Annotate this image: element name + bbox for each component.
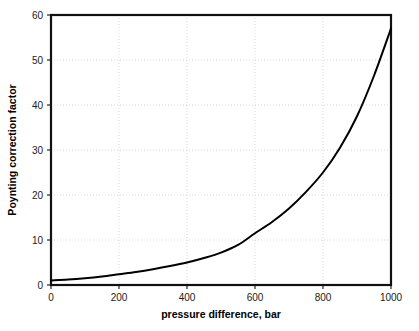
chart-background xyxy=(0,0,419,331)
poynting-correction-factor-chart: 02004006008001000 0102030405060 pressure… xyxy=(0,0,419,331)
y-tick-label: 50 xyxy=(32,55,44,66)
x-tick-label: 800 xyxy=(315,292,332,303)
x-tick-label: 1000 xyxy=(380,292,403,303)
x-tick-label: 400 xyxy=(179,292,196,303)
y-tick-label: 40 xyxy=(32,100,44,111)
y-tick-label: 60 xyxy=(32,10,44,21)
y-tick-label: 30 xyxy=(32,145,44,156)
chart-page: 02004006008001000 0102030405060 pressure… xyxy=(0,0,419,331)
y-tick-label: 0 xyxy=(37,280,43,291)
y-axis-title: Poynting correction factor xyxy=(6,84,18,215)
x-axis-title: pressure difference, bar xyxy=(161,308,281,320)
y-tick-label: 20 xyxy=(32,190,44,201)
y-tick-label: 10 xyxy=(32,235,44,246)
x-tick-label: 200 xyxy=(111,292,128,303)
x-tick-label: 0 xyxy=(48,292,54,303)
x-tick-label: 600 xyxy=(247,292,264,303)
